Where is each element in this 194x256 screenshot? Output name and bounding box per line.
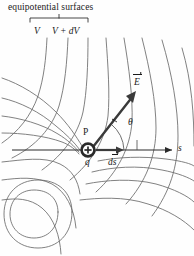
point-charge (82, 144, 95, 157)
theta-arc (111, 124, 124, 150)
ds-label: ds (108, 158, 116, 168)
physics-figure: equipotential surfaces V V + dV P q E ds… (0, 0, 194, 256)
point-p-label: P (83, 128, 88, 138)
e-field-label: E (134, 78, 140, 88)
figure-title: equipotential surfaces (8, 3, 93, 13)
s-axis-label: s (178, 144, 182, 154)
ds-vector-text: s (113, 158, 117, 168)
v-label: V (34, 27, 40, 37)
equipotential-curves (2, 38, 194, 254)
ds-vector (96, 147, 124, 154)
diagram-canvas (0, 0, 194, 256)
charge-q-label: q (85, 158, 90, 168)
equipotential-bracket (30, 15, 88, 23)
theta-label: θ (128, 118, 133, 128)
v-plus-dv-label: V + dV (52, 27, 79, 37)
e-field-label-text: E (134, 78, 140, 88)
